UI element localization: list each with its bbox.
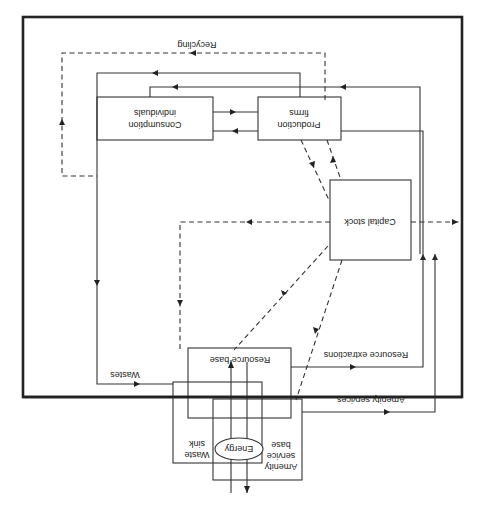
environment-boundary [23,17,462,397]
arrow-icon [281,290,287,296]
svg-text:service: service [267,451,296,461]
arrow-icon [384,409,390,415]
amenity-services-flow [302,254,435,412]
svg-text:individuals: individuals [133,108,176,118]
arrow-icon [94,280,100,286]
svg-text:Capital stock: Capital stock [344,217,396,227]
arrow-icon [309,161,315,168]
production-node: Production firms [258,97,341,140]
resource-base-node: Resource base [188,348,291,418]
svg-text:sink: sink [189,439,206,449]
capital-to-amenity-flow [296,260,342,400]
svg-text:Amenity: Amenity [264,462,297,472]
arrow-icon [340,84,346,90]
capital-stock-node: Capital stock [330,180,411,260]
resource-extractions-label: Resource extractions [323,350,408,360]
production-to-capital-flow [301,140,329,200]
amenity-to-consumption-line [150,87,420,254]
arrow-icon [59,119,65,125]
recycling-flow: Recycling [59,40,325,176]
consumption-node: Consumption individuals [97,97,213,140]
recycling-label: Recycling [177,40,216,50]
wastes-flow: Wastes [94,70,300,387]
svg-text:Resource base: Resource base [210,355,271,365]
arrow-icon [244,486,250,493]
svg-text:firms: firms [289,108,309,118]
arrow-icon [350,364,356,370]
arrow-icon [177,300,183,306]
arrow-icon [172,84,178,90]
arrow-icon [230,109,236,115]
capital-to-waste-flow [180,222,330,350]
arrow-icon [134,381,140,387]
capital-to-resource-flow [234,246,328,350]
svg-text:Consumption: Consumption [128,120,181,130]
arrow-icon [246,219,252,225]
arrow-icon [330,156,336,163]
arrow-icon [232,128,238,134]
svg-text:Waste: Waste [184,450,209,460]
wastes-label: Wastes [110,370,140,380]
energy-node: Energy [215,438,263,460]
svg-text:Energy: Energy [224,444,253,454]
arrow-icon [152,70,158,76]
economy-environment-diagram: Recycling Wastes Consumption individuals… [0,0,480,507]
arrow-icon [452,219,458,225]
svg-text:Production: Production [277,120,320,130]
svg-text:base: base [271,440,291,450]
